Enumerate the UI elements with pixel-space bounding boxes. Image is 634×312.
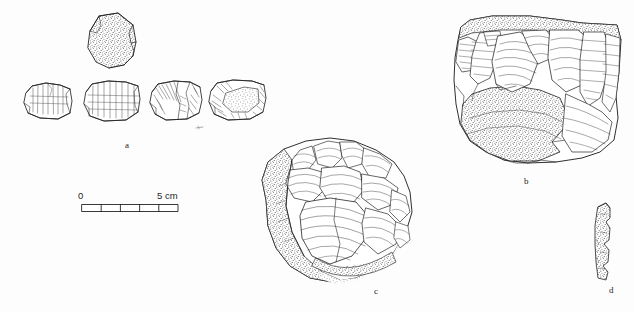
artefact-plate: 0 5 cm a b c d <box>0 0 634 312</box>
figure-a-register-mark <box>196 126 203 129</box>
figure-label-a: a <box>125 141 129 150</box>
figure-a-piece-3 <box>150 81 202 120</box>
scale-bar-graphic <box>82 205 178 212</box>
artefact-illustration <box>0 0 634 312</box>
figure-c-core <box>262 138 412 284</box>
figure-label-b: b <box>524 177 529 186</box>
figure-label-c: c <box>374 287 378 296</box>
figure-a-piece-1 <box>24 83 72 119</box>
figure-d-flake <box>595 203 610 280</box>
scale-bar-end-label: 5 cm <box>157 191 178 201</box>
figure-a-piece-top <box>88 13 136 68</box>
figure-b-core <box>454 16 621 163</box>
figure-a-piece-2 <box>84 81 140 121</box>
figure-label-d: d <box>609 286 614 295</box>
figure-a-piece-4 <box>209 80 266 120</box>
scale-bar-start-label: 0 <box>78 191 83 201</box>
